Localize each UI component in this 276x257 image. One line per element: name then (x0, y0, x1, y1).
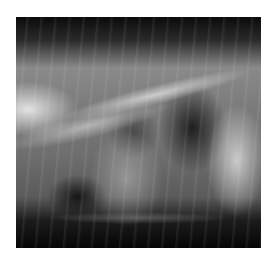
xray-image (16, 17, 261, 248)
sternum (16, 17, 261, 248)
